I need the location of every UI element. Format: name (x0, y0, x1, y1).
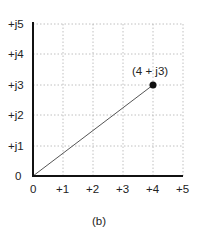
x-tick-1: +1 (56, 183, 69, 195)
y-tick-0: 0 (15, 170, 21, 182)
grid (33, 24, 183, 176)
y-tick-3: +j3 (8, 79, 24, 91)
point-label: (4 + j3) (132, 65, 168, 77)
data-point (150, 82, 157, 89)
y-tick-1: +j1 (8, 140, 24, 152)
x-tick-5: +5 (176, 183, 189, 195)
x-tick-3: +3 (116, 183, 129, 195)
x-tick-labels: 0 +1 +2 +3 +4 +5 (30, 183, 189, 195)
complex-plane-chart: (4 + j3) 0 +j1 +j2 +j3 +j4 +j5 0 +1 +2 +… (0, 0, 200, 241)
y-tick-5: +j5 (8, 18, 24, 30)
x-tick-2: +2 (86, 183, 99, 195)
x-tick-0: 0 (30, 183, 36, 195)
y-tick-4: +j4 (8, 48, 24, 60)
y-tick-2: +j2 (8, 109, 24, 121)
y-tick-labels: 0 +j1 +j2 +j3 +j4 +j5 (8, 18, 24, 182)
x-tick-4: +4 (146, 183, 160, 195)
figure-caption: (b) (92, 215, 106, 227)
